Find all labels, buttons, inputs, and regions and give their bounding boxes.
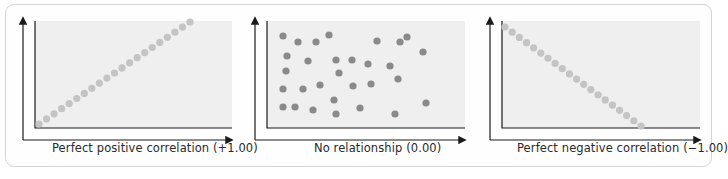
chart-negative-correlation: [490, 18, 700, 140]
plot-area: [35, 21, 232, 128]
data-point: [373, 37, 380, 44]
data-point: [580, 81, 587, 88]
data-point: [171, 29, 178, 36]
data-point: [403, 33, 410, 40]
data-point: [559, 65, 566, 72]
data-point: [530, 44, 537, 51]
caption-none: No relationship (0.00): [314, 141, 441, 155]
data-point: [164, 34, 171, 41]
data-point: [126, 59, 133, 66]
data-point: [283, 52, 290, 59]
plot-area: [502, 21, 700, 128]
data-point: [294, 38, 301, 45]
data-point: [282, 67, 289, 74]
data-point: [279, 103, 286, 110]
data-point: [573, 76, 580, 83]
data-point: [509, 29, 516, 36]
data-point: [103, 75, 110, 82]
data-point: [609, 102, 616, 109]
data-point: [88, 85, 95, 92]
data-point: [332, 110, 339, 117]
caption-positive: Perfect positive correlation (+1.00): [52, 141, 258, 155]
data-point: [523, 39, 530, 46]
data-point: [623, 112, 630, 119]
data-point: [422, 99, 429, 106]
data-point: [58, 105, 65, 112]
data-point: [501, 23, 508, 30]
data-point: [349, 82, 356, 89]
data-point: [81, 90, 88, 97]
data-point: [367, 80, 374, 87]
data-point: [602, 96, 609, 103]
data-point: [537, 49, 544, 56]
data-point: [516, 34, 523, 41]
data-point: [348, 56, 355, 63]
data-point: [66, 100, 73, 107]
data-point: [73, 95, 80, 102]
data-point: [291, 103, 298, 110]
data-point: [186, 18, 193, 25]
data-point: [356, 104, 363, 111]
data-point: [149, 44, 156, 51]
data-point: [111, 69, 118, 76]
data-point: [134, 54, 141, 61]
data-point: [630, 117, 637, 124]
chart-no-relationship: [255, 18, 465, 140]
data-point: [594, 91, 601, 98]
data-point: [316, 81, 323, 88]
data-point: [587, 86, 594, 93]
data-point: [156, 39, 163, 46]
data-point: [179, 24, 186, 31]
data-point: [394, 75, 401, 82]
data-point: [35, 120, 42, 127]
data-point: [396, 38, 403, 45]
data-point: [304, 57, 311, 64]
data-point: [552, 60, 559, 67]
data-point: [335, 69, 342, 76]
data-point: [51, 110, 58, 117]
data-point: [118, 64, 125, 71]
data-point: [309, 106, 316, 113]
data-point: [637, 122, 644, 129]
chart-positive-correlation: [23, 18, 232, 140]
data-point: [279, 32, 286, 39]
data-point: [325, 31, 332, 38]
caption-negative: Perfect negative correlation (−1.00): [517, 141, 728, 155]
data-point: [141, 49, 148, 56]
data-point: [386, 62, 393, 69]
data-point: [312, 38, 319, 45]
data-point: [330, 96, 337, 103]
data-point: [391, 110, 398, 117]
data-point: [419, 48, 426, 55]
data-point: [279, 85, 286, 92]
data-point: [544, 55, 551, 62]
data-point: [332, 56, 339, 63]
data-point: [43, 115, 50, 122]
data-point: [364, 60, 371, 67]
data-point: [96, 80, 103, 87]
data-point: [299, 85, 306, 92]
plot-area: [267, 21, 465, 128]
data-point: [616, 107, 623, 114]
data-point: [566, 70, 573, 77]
